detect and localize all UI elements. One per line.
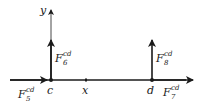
x-tick xyxy=(85,79,87,82)
point-d-label: d xyxy=(147,84,154,97)
force-label-f8: F 8 cd xyxy=(155,50,173,67)
svg-text:6: 6 xyxy=(63,59,68,67)
svg-text:F: F xyxy=(155,52,164,65)
force-label-f7: F 7 cd xyxy=(162,84,180,101)
svg-text:cd: cd xyxy=(63,50,72,58)
svg-text:cd: cd xyxy=(26,86,35,94)
svg-text:7: 7 xyxy=(171,93,176,101)
force-diagram: y x c d F 5 cd F 6 cd F 8 cd F 7 cd xyxy=(0,0,206,106)
force-label-f6: F 6 cd xyxy=(54,50,72,67)
svg-text:cd: cd xyxy=(164,50,173,58)
svg-text:F: F xyxy=(17,88,26,101)
point-c-label: c xyxy=(47,84,53,97)
y-axis-label: y xyxy=(39,4,47,17)
svg-text:F: F xyxy=(162,86,171,99)
svg-text:5: 5 xyxy=(26,95,31,103)
x-axis-label: x xyxy=(82,84,89,97)
force-label-f5: F 5 cd xyxy=(17,86,35,103)
point-c xyxy=(49,78,53,82)
point-d xyxy=(150,78,154,82)
svg-text:8: 8 xyxy=(164,59,169,67)
svg-text:cd: cd xyxy=(171,84,180,92)
svg-text:F: F xyxy=(54,52,63,65)
